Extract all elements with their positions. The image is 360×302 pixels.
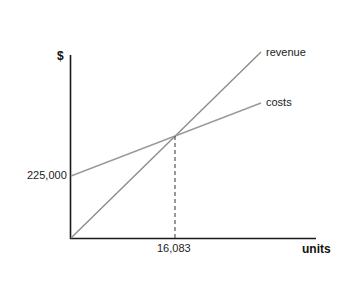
costs-line (71, 103, 261, 176)
revenue-label: revenue (266, 47, 306, 58)
fixed-cost-tick-label: 225,000 (27, 170, 67, 181)
break-even-chart: $ revenue costs 225,000 16,083 units (0, 0, 360, 302)
costs-label: costs (266, 97, 292, 108)
revenue-line (71, 52, 261, 238)
chart-plot (0, 0, 360, 302)
break-even-tick-label: 16,083 (157, 243, 191, 254)
y-axis-label: $ (57, 50, 64, 62)
x-axis-label: units (302, 243, 331, 255)
